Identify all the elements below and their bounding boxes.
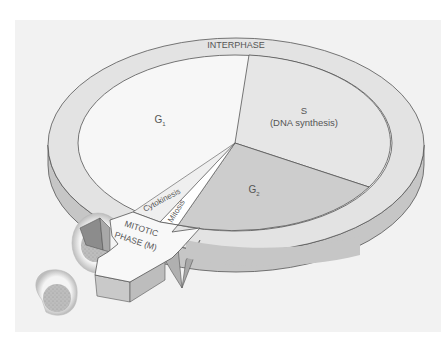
daughter-cell-lower bbox=[36, 270, 77, 315]
s-label: S bbox=[301, 105, 307, 116]
cell-cycle-diagram: INTERPHASE G1 S (DNA synthesis) G2 Cytok… bbox=[0, 0, 446, 342]
s-sublabel: (DNA synthesis) bbox=[270, 117, 338, 128]
interphase-label: INTERPHASE bbox=[207, 40, 265, 50]
